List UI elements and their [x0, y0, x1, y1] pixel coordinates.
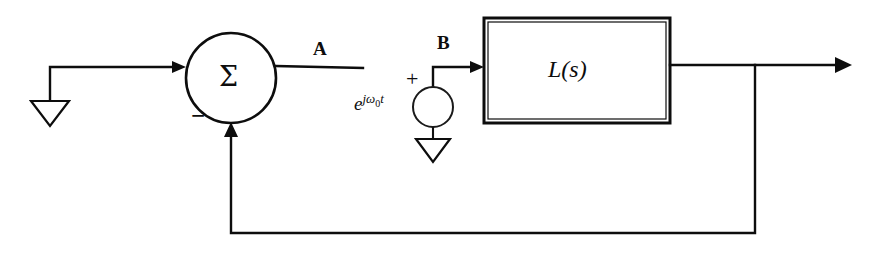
block-input-arrow-head [470, 61, 484, 73]
source-branch [433, 61, 484, 87]
source-to-block-wire [433, 67, 476, 87]
transfer-function-label: L(s) [548, 57, 587, 81]
transfer-function-s: s [569, 56, 578, 82]
node-a-wire [276, 66, 363, 68]
source-ground-symbol [416, 127, 450, 162]
input-ground-symbol [31, 101, 69, 126]
source-expression-label: ejω0t [354, 92, 384, 113]
negative-sign-label: − [191, 103, 205, 128]
node-a-label: A [313, 39, 327, 58]
output-branch [670, 57, 852, 73]
transfer-function-paren-close: ) [579, 56, 587, 82]
source-circle [413, 87, 453, 127]
input-arrow-head [172, 61, 186, 73]
summing-junction-symbol: Σ [219, 63, 238, 90]
source-exponent: jω0t [362, 91, 383, 106]
node-b-label: B [437, 33, 450, 52]
block-diagram-container: Σ A B − + L(s) ejω0t [0, 0, 875, 256]
positive-sign-label: + [406, 68, 418, 90]
output-arrow-head [835, 57, 852, 73]
ground-triangle [31, 101, 69, 126]
ground-triangle [416, 139, 450, 162]
source-exponent-t: t [380, 91, 384, 106]
input-wire [50, 67, 178, 100]
source-exponent-omega: ω [366, 91, 375, 106]
transfer-function-l: L [548, 56, 561, 82]
input-branch [50, 61, 186, 100]
